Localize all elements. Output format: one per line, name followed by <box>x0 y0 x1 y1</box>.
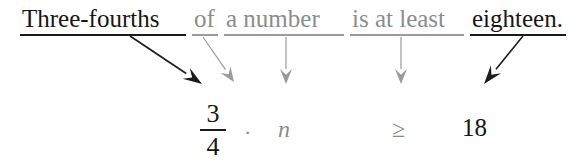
fraction-bar <box>200 129 226 131</box>
arrow-three-fourths <box>130 36 202 84</box>
arrow-eighteen <box>484 36 523 84</box>
underline-eighteen <box>470 34 566 36</box>
greater-than-or-equal-icon: ≥ <box>392 116 405 143</box>
phrase-eighteen: eighteen. <box>472 6 563 31</box>
variable-n: n <box>278 116 290 143</box>
phrase-three-fourths: Three-fourths <box>22 6 159 31</box>
multiplication-dot-icon: · <box>244 120 251 146</box>
fraction-denominator: 4 <box>196 133 230 160</box>
arrow-of <box>203 37 234 82</box>
arrow-a-number <box>280 37 292 84</box>
underline-of <box>192 34 218 36</box>
word-problem-translation-diagram: Three-fourths of a number is at least ei… <box>0 0 585 161</box>
fraction-three-fourths: 3 4 <box>196 100 230 161</box>
fraction-numerator: 3 <box>196 100 230 127</box>
number-eighteen: 18 <box>462 114 487 142</box>
phrase-of: of <box>194 6 215 31</box>
phrase-a-number: a number <box>226 6 320 31</box>
underline-a-number <box>224 34 344 36</box>
underline-three-fourths <box>20 34 186 36</box>
arrow-is-at-least <box>395 37 407 84</box>
underline-is-at-least <box>350 34 464 36</box>
phrase-is-at-least: is at least <box>352 6 445 31</box>
